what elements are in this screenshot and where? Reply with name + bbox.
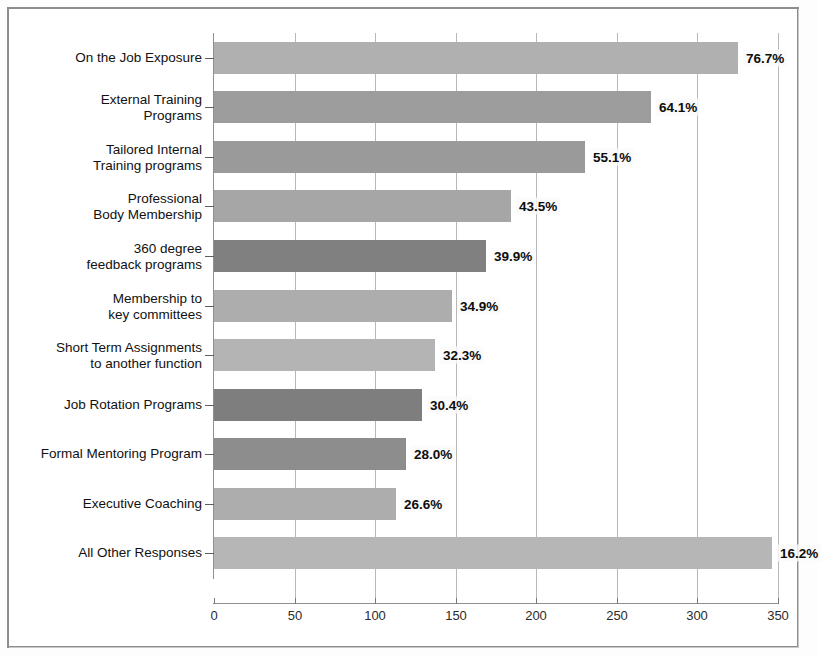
x-axis-tick-mark [617,598,618,604]
x-axis-tick-label: 300 [686,608,708,623]
y-axis-tick-mark [205,504,214,505]
bar-value-label: 43.5% [516,198,560,215]
bar [214,389,422,421]
x-axis-tick-label: 150 [445,608,467,623]
x-axis-tick-label: 200 [525,608,547,623]
bar [214,141,585,173]
x-axis-tick-label: 350 [767,608,789,623]
category-label: Executive Coaching [6,496,202,512]
y-axis-tick-mark [205,256,214,257]
y-axis-tick-mark [205,405,214,406]
gridline [778,33,779,603]
category-label: All Other Responses [6,545,202,561]
bar-value-label: 39.9% [491,248,535,265]
category-label: On the Job Exposure [6,50,202,66]
bar-value-label: 28.0% [411,446,455,463]
bar [214,537,772,569]
category-label: Membership to key committees [6,291,202,322]
y-axis-tick-mark [205,58,214,59]
bar-value-label: 34.9% [457,298,501,315]
bar-value-label: 16.2% [777,545,821,562]
bar-value-label: 30.4% [427,397,471,414]
x-axis-tick-mark [214,598,215,604]
y-axis-tick-mark [205,454,214,455]
x-axis-tick-label: 100 [364,608,386,623]
bar [214,190,511,222]
gridline [697,33,698,603]
bar [214,240,486,272]
category-label: Short Term Assignments to another functi… [6,340,202,371]
x-axis-tick-label: 250 [606,608,628,623]
x-axis-tick-mark [778,598,779,604]
x-axis-tick-mark [456,598,457,604]
bar [214,91,651,123]
bar-value-label: 64.1% [656,99,700,116]
category-label: Tailored Internal Training programs [6,142,202,173]
x-axis-tick-mark [295,598,296,604]
category-label: Formal Mentoring Program [6,446,202,462]
x-axis-tick-mark [536,598,537,604]
y-axis-tick-mark [205,553,214,554]
category-label: 360 degree feedback programs [6,241,202,272]
bar [214,290,452,322]
x-axis-tick-mark [375,598,376,604]
y-axis-tick-mark [205,107,214,108]
x-axis-tick-label: 0 [210,608,217,623]
y-axis-tick-mark [205,355,214,356]
bar-value-label: 32.3% [440,347,484,364]
category-label: Professional Body Membership [6,191,202,222]
bar-value-label: 26.6% [401,496,445,513]
y-axis-tick-mark [205,206,214,207]
x-axis-line [213,603,779,604]
bar [214,42,738,74]
x-axis-tick-label: 50 [288,608,302,623]
y-axis-tick-mark [205,306,214,307]
bar [214,339,435,371]
category-label: Job Rotation Programs [6,397,202,413]
category-label: External Training Programs [6,92,202,123]
bar-value-label: 76.7% [743,50,787,67]
bar-value-label: 55.1% [590,149,634,166]
bar [214,438,406,470]
x-axis-tick-mark [697,598,698,604]
y-axis-tick-mark [205,157,214,158]
bar [214,488,396,520]
